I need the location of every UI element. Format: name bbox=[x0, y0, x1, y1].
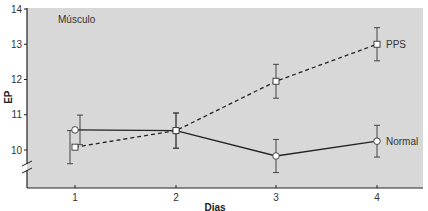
marker-square bbox=[273, 78, 279, 84]
marker-circle bbox=[273, 153, 280, 160]
y-axis-title: EP bbox=[3, 90, 14, 104]
panel-label: Músculo bbox=[58, 14, 96, 25]
y-tick-label: 13 bbox=[11, 39, 23, 50]
x-tick-label: 3 bbox=[273, 192, 279, 203]
line-chart: 10111213141234 Músculo EP Dias NormalPPS bbox=[0, 0, 428, 211]
x-tick-label: 2 bbox=[173, 192, 179, 203]
y-tick-label: 10 bbox=[11, 145, 23, 156]
y-tick-label: 12 bbox=[11, 74, 23, 85]
y-tick-label: 11 bbox=[12, 109, 23, 120]
y-tick-label: 14 bbox=[11, 4, 23, 15]
marker-square bbox=[72, 144, 78, 150]
plot-area bbox=[27, 8, 423, 188]
marker-circle bbox=[374, 138, 381, 145]
x-axis-title: Dias bbox=[204, 202, 226, 211]
series-label-pps: PPS bbox=[386, 39, 406, 50]
series-label-normal: Normal bbox=[386, 136, 418, 147]
x-tick-label: 1 bbox=[72, 192, 78, 203]
marker-square bbox=[374, 41, 380, 47]
x-tick-label: 4 bbox=[374, 192, 380, 203]
marker-circle bbox=[72, 127, 79, 134]
marker-square bbox=[173, 128, 179, 134]
